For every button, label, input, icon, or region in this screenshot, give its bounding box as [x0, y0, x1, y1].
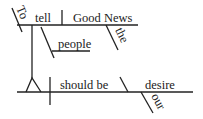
word-the: the: [112, 25, 131, 45]
pedestal-base: [26, 78, 41, 92]
people-slant-line: [41, 27, 54, 58]
sentence-diagram: To tell Good News the people should be d…: [0, 0, 203, 119]
word-people: people: [58, 37, 92, 51]
word-tell: tell: [35, 11, 51, 25]
complement-divider: [120, 77, 128, 92]
word-good-news: Good News: [73, 11, 133, 25]
word-desire: desire: [145, 78, 175, 92]
word-should-be: should be: [60, 78, 109, 92]
